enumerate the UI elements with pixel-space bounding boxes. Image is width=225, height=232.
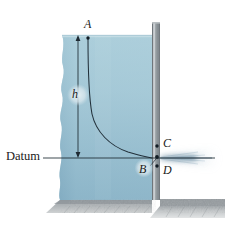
label-datum: Datum <box>6 150 40 163</box>
wall-body <box>152 22 160 200</box>
figure-canvas: A h C B D Datum <box>0 0 225 232</box>
water-streak <box>95 36 111 199</box>
marker-point-a <box>86 36 89 39</box>
marker-point-b <box>155 155 159 159</box>
label-height-h: h <box>72 88 78 100</box>
wall-right-edge <box>159 22 160 200</box>
marker-point-d <box>155 164 158 167</box>
marker-point-c <box>155 144 158 147</box>
height-label-halo <box>67 84 89 106</box>
label-point-c: C <box>163 137 171 149</box>
wall-top-cap <box>152 22 160 24</box>
label-point-a: A <box>84 18 91 30</box>
tank-wall <box>152 22 160 200</box>
wall-left-edge <box>152 22 153 200</box>
fluid-tank-diagram-svg <box>0 0 225 232</box>
label-point-b: B <box>139 163 146 175</box>
wall-specular-highlight <box>153 22 155 200</box>
label-point-d: D <box>163 164 172 176</box>
ground-foundation <box>46 199 225 219</box>
